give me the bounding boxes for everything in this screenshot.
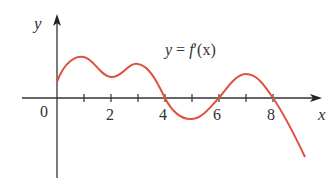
tick-label-6: 6	[213, 106, 221, 123]
tick-label-2: 2	[106, 106, 114, 123]
equation-equals: =	[172, 41, 189, 58]
equation-rest: ′(x)	[194, 41, 216, 59]
equation-label: y = f′(x)	[163, 41, 216, 59]
tick-label-8: 8	[267, 106, 275, 123]
origin-label: 0	[40, 103, 48, 120]
x-axis-label: x	[317, 105, 326, 124]
chart: y x 0 2 4 6 8 y = f′(x)	[0, 0, 330, 180]
tick-label-4: 4	[159, 106, 167, 123]
y-axis-label: y	[32, 14, 42, 33]
